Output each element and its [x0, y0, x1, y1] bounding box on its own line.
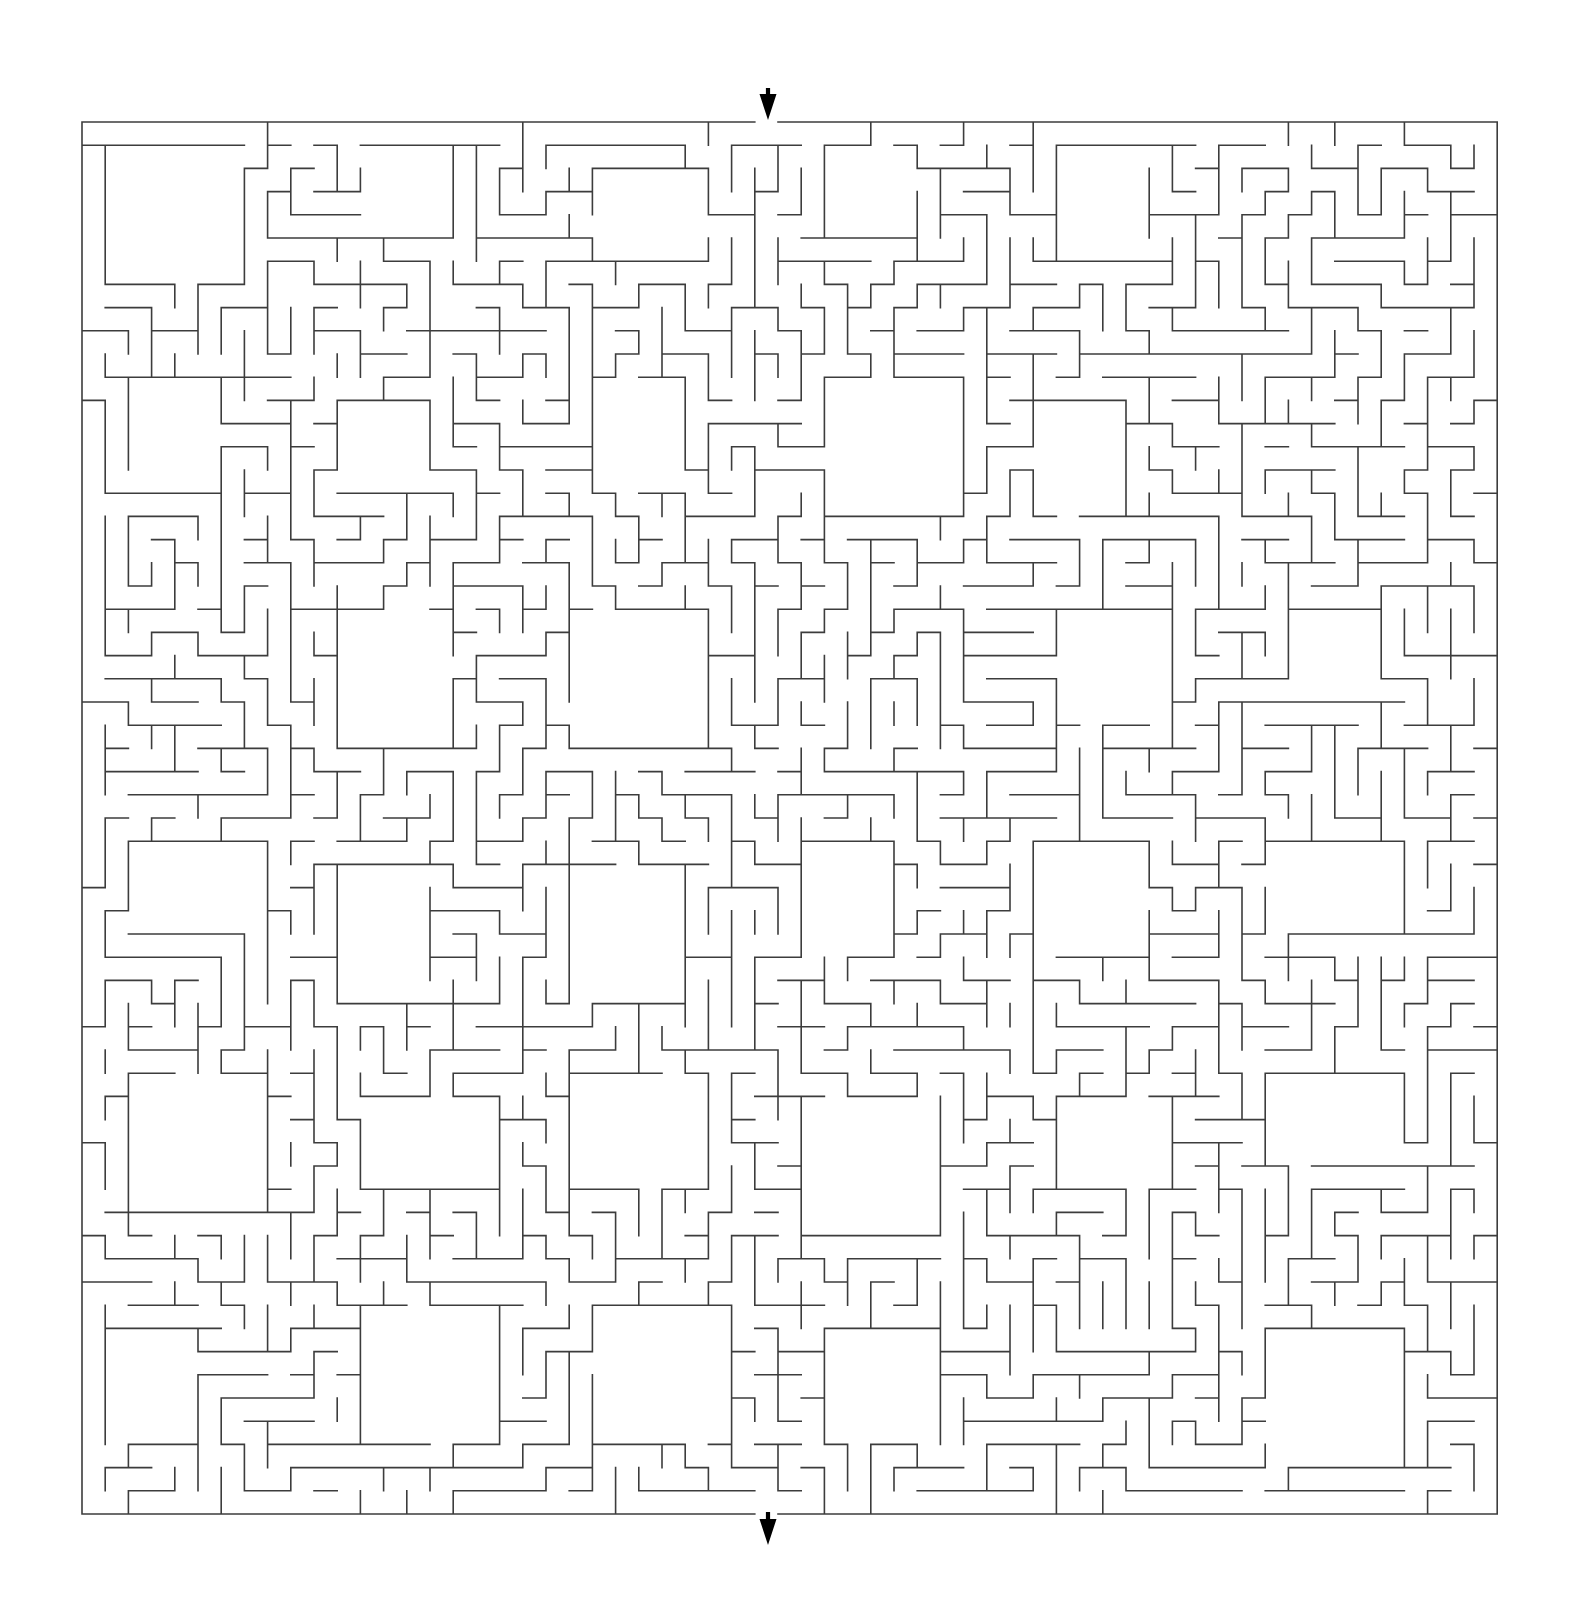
maze-page: [0, 0, 1575, 1619]
maze-drawing: [0, 0, 1575, 1619]
page-background: [0, 0, 1575, 1619]
